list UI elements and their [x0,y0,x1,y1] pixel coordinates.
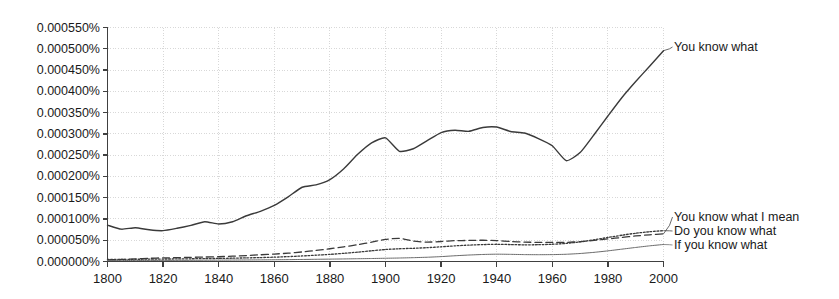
x-tick-label: 1820 [149,272,178,285]
x-tick-label: 1800 [93,272,122,285]
series-label-3: If you know what [674,239,767,252]
x-tick-label: 1940 [482,272,511,285]
x-tick-label: 1840 [204,272,233,285]
x-tick-label: 2000 [649,272,678,285]
x-tick-label: 1900 [371,272,400,285]
x-tick-label: 1860 [260,272,289,285]
x-tick-label: 1880 [315,272,344,285]
series-label-2: Do you know what [674,225,776,238]
series-label-0: You know what [674,41,758,54]
x-tick-label: 1980 [593,272,622,285]
x-tick-label: 1920 [427,272,456,285]
series-label-1: You know what I mean [674,211,799,224]
x-tick-label: 1960 [538,272,567,285]
ngram-viewer-chart: 0.000000%0.000050%0.000100%0.000150%0.00… [0,0,839,299]
